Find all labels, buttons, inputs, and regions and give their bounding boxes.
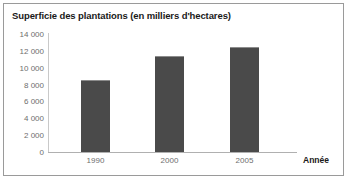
y-tick-label: 8 000 — [8, 80, 44, 89]
y-tick-label: 0 — [8, 148, 44, 157]
x-tick-label: 2000 — [161, 156, 179, 165]
y-axis-line — [48, 33, 49, 153]
x-axis-label: Année — [303, 155, 329, 165]
x-tick-label: 1990 — [87, 156, 105, 165]
bar — [155, 56, 184, 152]
bar — [81, 80, 110, 152]
chart-page: Superficie des plantations (en milliers … — [0, 0, 347, 179]
y-tick-label: 4 000 — [8, 114, 44, 123]
x-axis-line — [48, 152, 297, 153]
plot-area: 14 00012 00010 0008 0006 0004 0002 0000 … — [0, 0, 347, 179]
bar — [230, 47, 259, 152]
y-tick-label: 10 000 — [8, 63, 44, 72]
y-tick-label: 12 000 — [8, 46, 44, 55]
y-tick-label: 6 000 — [8, 97, 44, 106]
y-tick-label: 14 000 — [8, 30, 44, 39]
x-tick-label: 2005 — [236, 156, 254, 165]
y-tick-label: 2 000 — [8, 131, 44, 140]
